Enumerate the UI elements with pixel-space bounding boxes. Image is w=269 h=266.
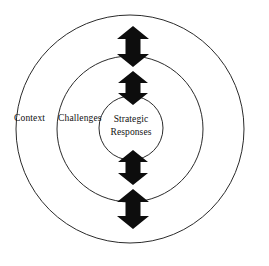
- arrow-outer-bottom-icon: [117, 189, 149, 229]
- concentric-circles-diagram: Context Challenges Strategic Responses: [0, 0, 269, 266]
- label-context: Context: [14, 113, 45, 123]
- arrow-outer-top-icon: [117, 26, 149, 67]
- diagram-canvas: Context Challenges Strategic Responses: [0, 0, 269, 266]
- arrow-inner-top-icon: [118, 71, 148, 105]
- label-strategic-responses-line2: Responses: [110, 127, 151, 137]
- label-challenges: Challenges: [58, 113, 102, 123]
- arrow-inner-bottom-icon: [118, 150, 148, 185]
- label-strategic-responses-line1: Strategic: [114, 114, 149, 124]
